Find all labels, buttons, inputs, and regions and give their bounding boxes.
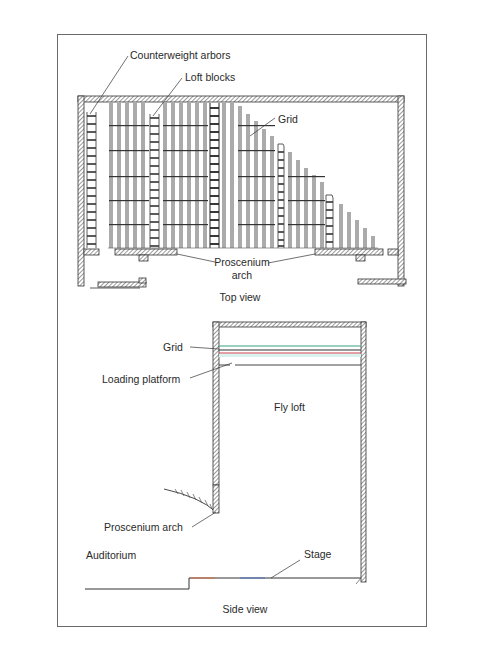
loft-blocks-ladder-3 <box>278 144 284 248</box>
top-wall-left <box>78 96 84 286</box>
label-proscenium-top-2: arch <box>212 269 272 281</box>
loft-blocks-ladder-4 <box>326 195 333 248</box>
label-loading-platform: Loading platform <box>102 373 180 385</box>
label-grid-side: Grid <box>163 341 183 353</box>
label-grid-top: Grid <box>278 113 298 125</box>
side-roof <box>213 322 366 327</box>
top-wall-back <box>78 96 404 102</box>
top-view <box>78 56 406 288</box>
leader-proscenium-right <box>268 254 315 263</box>
label-stage: Stage <box>304 548 331 560</box>
leader-stage <box>271 560 300 578</box>
counterweight-arbor-ladder <box>87 112 96 248</box>
proscenium-arch-right <box>315 249 383 255</box>
label-proscenium-arch-side: Proscenium arch <box>104 521 183 533</box>
leader-proscenium-side <box>192 512 216 527</box>
label-fly-loft: Fly loft <box>274 401 305 413</box>
caption-side-view: Side view <box>215 603 275 615</box>
label-proscenium-top-1: Proscenium <box>212 256 272 268</box>
caption-top-view: Top view <box>210 291 270 303</box>
proscenium-arch-left <box>115 249 177 255</box>
stage-house-diagram <box>0 0 481 665</box>
top-wall-right <box>398 96 404 286</box>
auditorium-floor <box>85 578 189 589</box>
auditorium-wall-right <box>358 279 406 284</box>
top-stub-right-wall <box>388 249 398 255</box>
leader-counterweight-arbors <box>90 56 128 114</box>
label-counterweight-arbors: Counterweight arbors <box>130 49 230 61</box>
proscenium-arch-right-tab <box>356 255 365 261</box>
grid-crossbars <box>109 125 208 225</box>
loft-blocks-ladder-1 <box>150 114 159 248</box>
proscenium-arch-left-tab <box>139 255 148 261</box>
side-wall-back <box>361 322 366 582</box>
proscenium-arch-curve <box>164 489 216 512</box>
leader-proscenium-left <box>177 254 215 262</box>
leader-loading-platform <box>190 363 232 378</box>
top-stub-left <box>84 249 99 255</box>
leader-grid-top <box>250 118 275 136</box>
label-loft-blocks: Loft blocks <box>185 71 235 83</box>
side-wall-front <box>213 322 219 485</box>
label-auditorium: Auditorium <box>86 549 136 561</box>
loft-blocks-ladder-2 <box>210 103 219 248</box>
